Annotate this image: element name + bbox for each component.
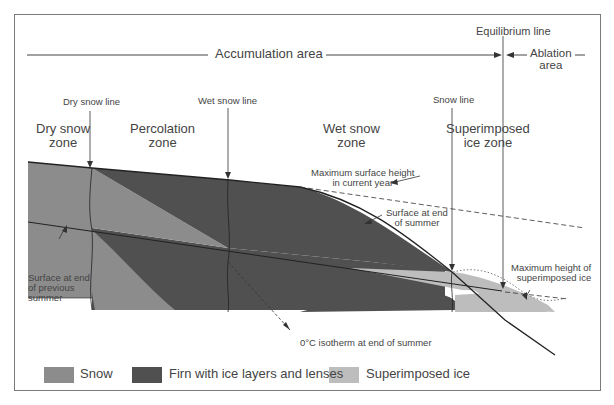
superimposed-ice-zone-label: Superimposed ice zone <box>446 122 530 149</box>
max-surface-height-label: Maximum surface height in current year <box>311 168 414 188</box>
wet-snow-line-arrow-icon <box>225 172 231 179</box>
accumulation-area-label: Accumulation area <box>212 47 326 61</box>
surface-end-summer-label: Surface at end of summer <box>386 208 448 228</box>
dry-snow-line-arrow-icon <box>87 161 93 168</box>
legend-label-superimposed-ice: Superimposed ice <box>366 367 470 381</box>
dry-snow-line-label: Dry snow line <box>63 97 120 107</box>
snow-line-label: Snow line <box>433 95 474 105</box>
ablation-arrow-icon <box>506 52 514 58</box>
legend-swatch-firn <box>132 367 162 383</box>
surface-previous-summer-label: Surface at end of previous summer <box>28 273 90 303</box>
legend-swatch-snow <box>44 367 74 383</box>
wet-snow-zone-label: Wet snow zone <box>323 122 380 149</box>
legend-label-snow: Snow <box>80 367 113 381</box>
percolation-zone-label: Percolation zone <box>130 122 195 149</box>
legend-label-firn: Firn with ice layers and lenses <box>169 367 343 381</box>
ablation-area-label: Ablation area <box>527 47 575 71</box>
isotherm-label: 0°C isotherm at end of summer <box>300 338 432 348</box>
equilibrium-line-label: Equilibrium line <box>476 26 551 38</box>
accumulation-arrow-icon <box>494 52 502 58</box>
dry-snow-zone-label: Dry snow zone <box>36 122 90 149</box>
wet-snow-line-label: Wet snow line <box>198 96 257 106</box>
max-superimposed-height-label: Maximum height of superimposed ice <box>511 263 591 283</box>
